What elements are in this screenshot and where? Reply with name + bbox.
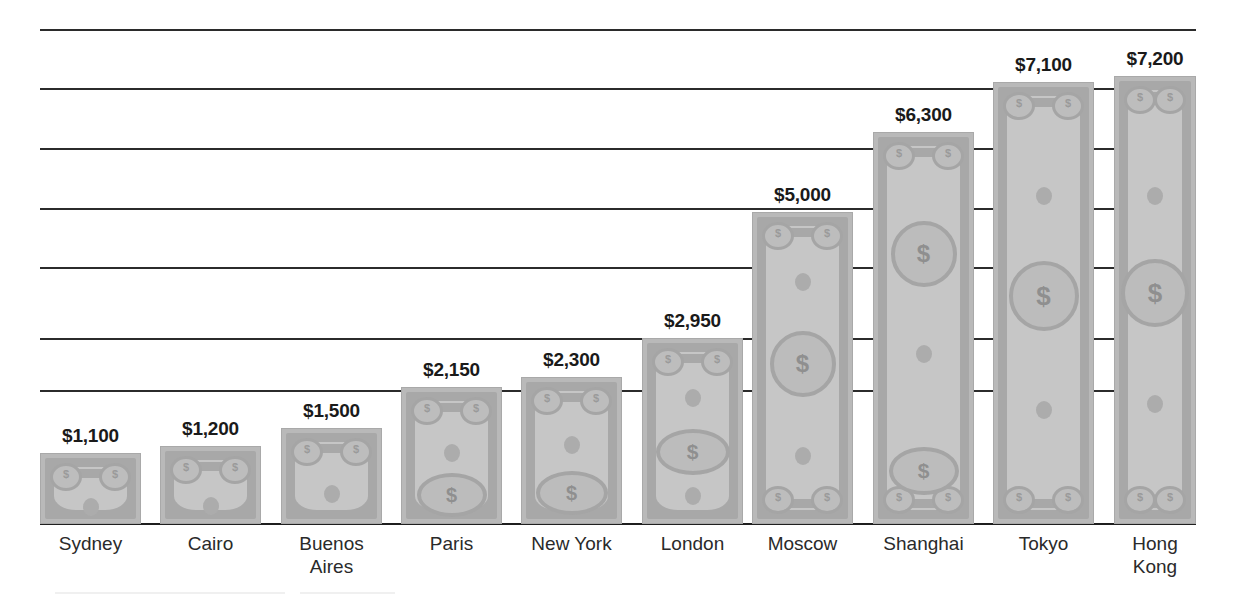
value-label-sydney: $1,100 (40, 425, 141, 447)
category-label-moscow: Moscow (752, 532, 853, 555)
dollar-medallion-icon: $ (656, 429, 730, 475)
bar-moscow[interactable]: $ $ $ $ $ (752, 212, 853, 524)
dollar-seal-icon: $ (701, 348, 733, 376)
bar-chart: $ $ $ $ $ $ (0, 0, 1235, 599)
category-label-shanghai: Shanghai (873, 532, 974, 555)
dollar-seal-icon: $ (762, 486, 794, 514)
dollar-seal-icon: $ (1003, 486, 1035, 514)
dollar-seal-icon: $ (883, 142, 915, 170)
banknote-dot (795, 447, 811, 465)
dollar-seal-icon: $ (1154, 486, 1186, 514)
banknote-dot (1036, 401, 1052, 419)
dollar-seal-icon: $ (580, 387, 612, 415)
banknote-dot (1147, 395, 1163, 413)
category-label-buenos-aires: BuenosAires (271, 532, 392, 578)
dollar-seal-icon: $ (460, 397, 492, 425)
bar-london[interactable]: $ $ $ (642, 338, 743, 524)
dollar-seal-icon: $ (1052, 486, 1084, 514)
value-label-moscow: $5,000 (752, 184, 853, 206)
dollar-seal-icon: $ (170, 456, 202, 484)
banknote-dot (324, 485, 340, 503)
category-label-paris: Paris (401, 532, 502, 555)
dollar-seal-icon: $ (811, 222, 843, 250)
dollar-medallion-icon: $ (536, 471, 608, 515)
banknote-dot (564, 436, 580, 454)
category-label-tokyo: Tokyo (993, 532, 1094, 555)
dollar-seal-icon: $ (1124, 86, 1156, 114)
scan-artifact (55, 592, 285, 594)
bar-buenos-aires[interactable]: $ $ (281, 428, 382, 524)
banknote-dot (203, 497, 219, 515)
dollar-seal-icon: $ (1124, 486, 1156, 514)
bar-hong-kong[interactable]: $ $ $ $ $ (1114, 76, 1196, 524)
dollar-seal-icon: $ (932, 142, 964, 170)
dollar-seal-icon: $ (762, 222, 794, 250)
value-label-london: $2,950 (642, 310, 743, 332)
banknote-dot (685, 487, 701, 505)
category-label-cairo: Cairo (160, 532, 261, 555)
dollar-seal-icon: $ (291, 438, 323, 466)
value-label-shanghai: $6,300 (873, 104, 974, 126)
dollar-medallion-icon: $ (417, 473, 487, 517)
category-label-new-york: New York (511, 532, 632, 555)
banknote-dot (83, 498, 99, 516)
value-label-paris: $2,150 (401, 359, 502, 381)
category-label-sydney: Sydney (40, 532, 141, 555)
value-label-tokyo: $7,100 (993, 54, 1094, 76)
bar-shanghai[interactable]: $ $ $ $ $ $ (873, 132, 974, 524)
banknote-dot (444, 444, 460, 462)
banknote-dot (916, 345, 932, 363)
dollar-seal-icon: $ (411, 397, 443, 425)
dollar-seal-icon: $ (340, 438, 372, 466)
bar-sydney[interactable]: $ $ (40, 453, 141, 524)
banknote-dot (1036, 187, 1052, 205)
dollar-medallion-icon: $ (1009, 261, 1079, 331)
dollar-medallion-icon: $ (889, 447, 959, 495)
banknote-dot (685, 389, 701, 407)
scan-artifact (300, 592, 395, 594)
category-label-london: London (642, 532, 743, 555)
plot-area: $ $ $ $ $ $ (0, 0, 1235, 524)
dollar-seal-icon: $ (811, 486, 843, 514)
bar-tokyo[interactable]: $ $ $ $ $ (993, 82, 1094, 524)
dollar-seal-icon: $ (652, 348, 684, 376)
dollar-medallion-icon: $ (770, 331, 836, 397)
dollar-seal-icon: $ (219, 456, 251, 484)
dollar-seal-icon: $ (1154, 86, 1186, 114)
bar-cairo[interactable]: $ $ (160, 446, 261, 524)
banknote-dot (795, 273, 811, 291)
value-label-cairo: $1,200 (160, 418, 261, 440)
dollar-seal-icon: $ (1052, 92, 1084, 120)
dollar-medallion-icon: $ (891, 221, 957, 287)
bar-new-york[interactable]: $ $ $ (521, 377, 622, 524)
dollar-medallion-icon: $ (1121, 259, 1189, 327)
dollar-seal-icon: $ (99, 463, 131, 491)
dollar-seal-icon: $ (1003, 92, 1035, 120)
dollar-seal-icon: $ (531, 387, 563, 415)
value-label-new-york: $2,300 (521, 349, 622, 371)
bar-paris[interactable]: $ $ $ (401, 387, 502, 524)
value-label-buenos-aires: $1,500 (281, 400, 382, 422)
banknote-dot (1147, 187, 1163, 205)
value-label-hong-kong: $7,200 (1110, 48, 1200, 70)
dollar-seal-icon: $ (50, 463, 82, 491)
category-label-hong-kong: HongKong (1110, 532, 1200, 578)
